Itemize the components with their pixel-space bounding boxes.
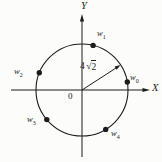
point-label-w1: w1	[97, 29, 106, 40]
y-axis-arrowhead-icon	[80, 14, 84, 22]
w2-subscript: 2	[20, 72, 23, 78]
point-dot-w4	[103, 127, 108, 132]
point-dot-w2	[37, 70, 42, 75]
radius-arrowhead-icon	[115, 65, 121, 70]
w3-subscript: 3	[33, 120, 36, 126]
radius-label: 4√2	[80, 62, 96, 72]
point-label-w0: w0	[130, 73, 139, 84]
origin-label: 0	[68, 92, 73, 101]
radius-coefficient: 4	[80, 61, 85, 71]
point-label-w4: w4	[111, 129, 120, 140]
w4-subscript: 4	[117, 134, 120, 140]
x-axis-arrowhead-icon	[143, 88, 151, 92]
roots-circle-diagram: Y X 0 4√2 w0 w1 w2 w3 w4	[0, 0, 162, 162]
point-dot-w3	[44, 117, 49, 122]
w1-subscript: 1	[103, 34, 106, 40]
x-axis-label: X	[152, 83, 158, 94]
radius-radicand: 2	[91, 60, 96, 72]
point-label-w2: w2	[14, 67, 23, 78]
y-axis-label: Y	[81, 1, 87, 12]
point-label-w3: w3	[27, 115, 36, 126]
w0-subscript: 0	[136, 78, 139, 84]
point-dot-w1	[90, 43, 95, 48]
